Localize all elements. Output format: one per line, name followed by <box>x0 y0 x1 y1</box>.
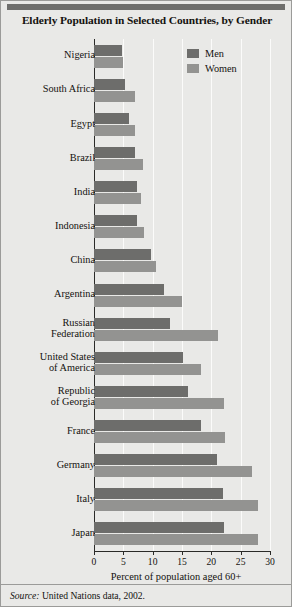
legend-item-women: Women <box>187 61 237 76</box>
bar-women <box>94 534 258 545</box>
x-axis-tick-label: 0 <box>79 556 109 567</box>
bar-women <box>94 57 123 68</box>
bar-women <box>94 466 252 477</box>
x-axis-tick <box>94 552 95 555</box>
source-text: United Nations data, 2002. <box>42 590 145 601</box>
bar-men <box>94 113 129 124</box>
bar-women <box>94 227 144 238</box>
gridline <box>270 39 271 551</box>
x-axis-tick <box>211 552 212 555</box>
x-axis-title: Percent of population aged 60+ <box>61 571 291 582</box>
category-label: Republic of Georgia <box>51 385 95 408</box>
category-label: United States of America <box>40 351 95 374</box>
bar-men <box>94 420 201 431</box>
chart-figure: Elderly Population in Selected Countries… <box>0 0 292 607</box>
source-divider <box>1 584 291 585</box>
bar-men <box>94 215 137 226</box>
category-label: South Africa <box>43 83 95 95</box>
bar-men <box>94 318 170 329</box>
category-label: Nigeria <box>64 49 95 61</box>
source-prefix: Source: <box>10 590 39 601</box>
legend-swatch-men-icon <box>187 49 199 58</box>
bar-women <box>94 500 258 511</box>
bar-men <box>94 522 224 533</box>
category-label: Russian Federation <box>51 317 95 340</box>
x-axis-tick <box>153 552 154 555</box>
category-label: Argentina <box>54 288 95 300</box>
x-axis-tick-label: 15 <box>167 556 197 567</box>
category-label: Egypt <box>70 118 95 130</box>
x-axis-tick <box>182 552 183 555</box>
x-axis-tick-label: 20 <box>196 556 226 567</box>
legend-swatch-women-icon <box>187 64 199 73</box>
bar-women <box>94 261 156 272</box>
x-axis-tick-label: 10 <box>138 556 168 567</box>
bar-women <box>94 330 218 341</box>
source-note: Source: United Nations data, 2002. <box>10 590 145 601</box>
x-axis-tick <box>123 552 124 555</box>
bar-men <box>94 488 223 499</box>
bar-women <box>94 296 182 307</box>
x-axis-tick <box>241 552 242 555</box>
bar-men <box>94 45 122 56</box>
category-label: France <box>67 425 95 437</box>
bar-women <box>94 193 141 204</box>
x-axis-tick-label: 5 <box>108 556 138 567</box>
chart-legend: Men Women <box>187 46 237 76</box>
category-label: Japan <box>72 527 95 539</box>
bar-women <box>94 159 143 170</box>
bar-men <box>94 181 137 192</box>
x-axis-tick-label: 30 <box>255 556 285 567</box>
bar-women <box>94 91 135 102</box>
bar-women <box>94 125 135 136</box>
bar-men <box>94 284 164 295</box>
bar-men <box>94 147 135 158</box>
chart-title: Elderly Population in Selected Countries… <box>1 14 292 26</box>
bar-women <box>94 432 225 443</box>
category-label: China <box>70 254 95 266</box>
category-label: Italy <box>76 493 95 505</box>
bar-men <box>94 352 183 363</box>
legend-item-men: Men <box>187 46 237 61</box>
bar-men <box>94 79 125 90</box>
bar-women <box>94 398 224 409</box>
x-axis-tick-label: 25 <box>226 556 256 567</box>
legend-label-men: Men <box>205 48 224 59</box>
bar-women <box>94 364 201 375</box>
bar-men <box>94 249 151 260</box>
category-label: Indonesia <box>55 220 95 232</box>
category-label: Brazil <box>70 152 95 164</box>
bar-men <box>94 454 217 465</box>
category-label: Germany <box>57 459 95 471</box>
x-axis-tick <box>270 552 271 555</box>
category-label: India <box>74 186 95 198</box>
legend-label-women: Women <box>205 63 237 74</box>
bar-men <box>94 386 188 397</box>
header-rule <box>7 4 285 10</box>
